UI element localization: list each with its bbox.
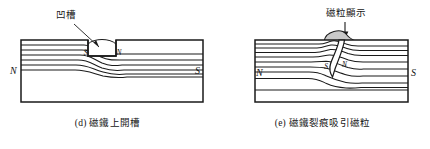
diagram-e-svg: S N — [215, 0, 430, 120]
magnet-pole-s-d: S — [195, 65, 200, 77]
groove-inner-pole-n: N — [115, 48, 122, 57]
groove-leader-arrowhead — [94, 40, 100, 47]
magnet-pole-n-d: N — [10, 65, 17, 77]
panel-magnet-with-crack: 磁粒顯示 — [215, 0, 430, 149]
magnet-pole-n-e: N — [256, 67, 263, 79]
figure-root: 凹槽 — [0, 0, 430, 149]
groove-inner-pole-s: S — [84, 48, 88, 57]
magnet-body-outline-d — [21, 40, 203, 102]
crack-inner-pole-s: S — [324, 62, 328, 71]
caption-d: (d) 磁鐵上開槽 — [0, 116, 215, 130]
panel-magnet-with-groove: 凹槽 — [0, 0, 215, 149]
crack-inner-pole-n: N — [341, 60, 348, 69]
caption-e: (e) 磁鐵裂痕吸引磁粒 — [215, 116, 430, 130]
magnet-pole-s-e: S — [411, 67, 416, 79]
diagram-d-svg: S N — [0, 0, 215, 120]
groove-rectangle — [88, 40, 116, 56]
